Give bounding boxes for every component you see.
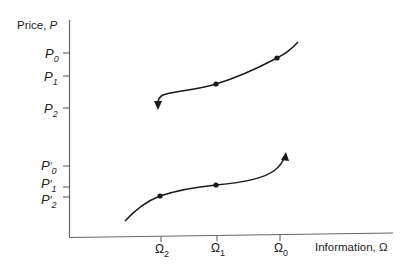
tick-label-Omega2: Ω2 [155,242,169,259]
point-Omega1-P1 [213,81,218,86]
arrow-down-icon [154,101,162,110]
y-ticks [63,53,70,197]
lower-curve [125,152,289,221]
upper-curve [154,42,298,110]
point-Omega2-Pprime2 [157,193,162,198]
tick-label-P2: P2 [44,101,58,119]
y-axis-label: Price, P [17,19,58,31]
tick-label-P1: P1 [44,69,58,87]
arrow-up-icon [281,152,289,161]
tick-label-Pprime2: P′2 [41,192,57,210]
point-Omega0-P0 [274,55,279,60]
price-information-diagram: Price, P P0 P1 P2 P′0 P′1 P′2 Ω2 Ω1 Ω0 I… [0,0,412,273]
tick-label-P0: P0 [45,46,59,64]
tick-label-Pprime0: P′0 [41,158,57,176]
point-Omega1-Pprime1 [213,182,218,187]
tick-label-Omega0: Ω0 [274,241,288,258]
diagram-canvas: Price, P P0 P1 P2 P′0 P′1 P′2 Ω2 Ω1 Ω0 I… [0,0,412,273]
x-axis-label: Information, Ω [315,241,388,253]
x-axis [70,233,394,238]
tick-label-Omega1: Ω1 [211,241,225,258]
